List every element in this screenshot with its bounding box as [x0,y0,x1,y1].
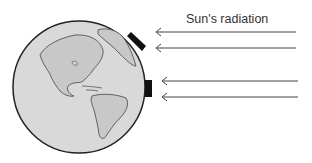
arrow-1 [156,28,296,36]
arrow-2 [156,44,296,52]
globe [13,21,145,153]
vertical-panel [145,80,152,97]
sun-radiation-label: Sun's radiation [186,12,268,26]
radiation-arrows [156,28,298,101]
arrow-4 [162,93,298,101]
arrow-3 [162,77,298,85]
